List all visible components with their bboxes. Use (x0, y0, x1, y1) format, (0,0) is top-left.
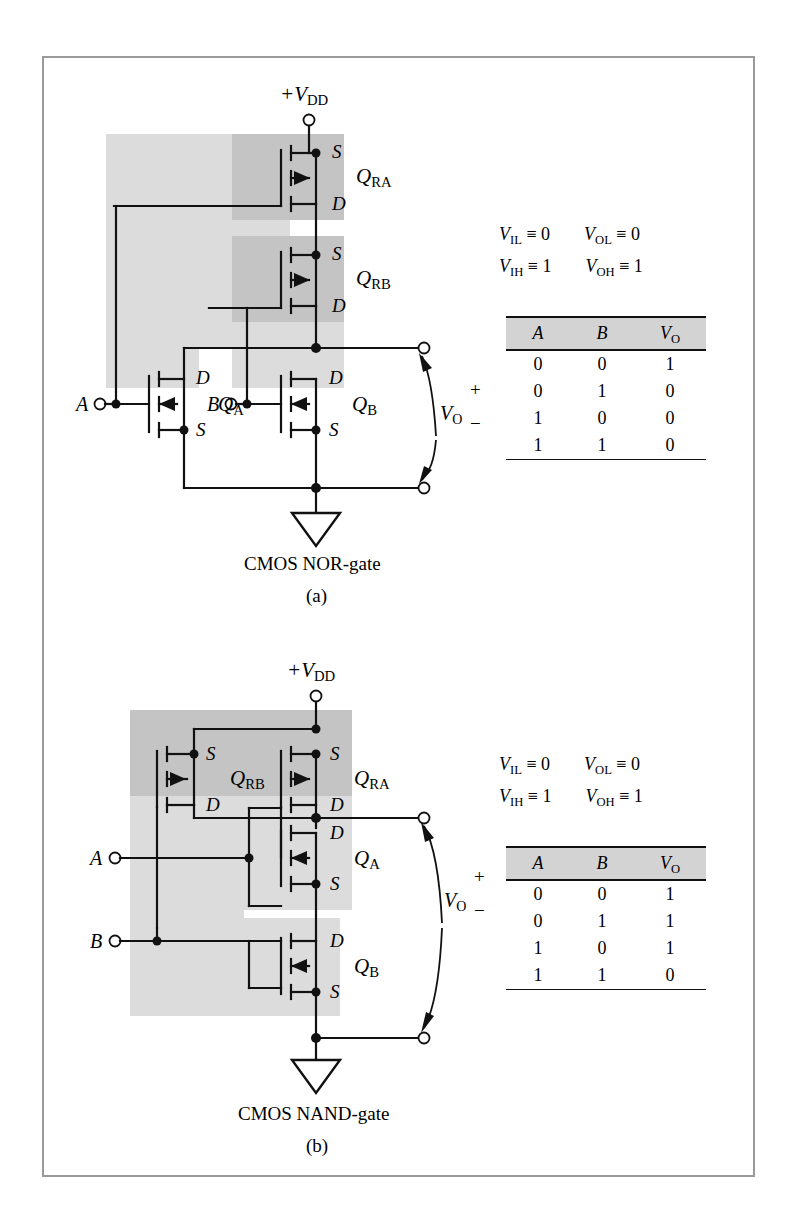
figure-frame: +VDD S D QRA S D QRB D S QA D S QB A B (42, 56, 755, 1177)
nor-cell-vo: 1 (634, 350, 706, 378)
nand-cell-a: 0 (506, 880, 570, 908)
nand-legend-row-1: VIL ≡ 0 VOL ≡ 0 (499, 754, 643, 775)
nand-vdd-terminal (311, 691, 322, 702)
nand-output-terminal-top (419, 813, 430, 824)
nand-vo-arrowhead-down-icon (421, 1012, 434, 1033)
nor-truth-table: A B VO 0 0 1 0 1 0 (506, 316, 706, 460)
nor-cell-b: 0 (570, 350, 634, 378)
table-row: 1 0 1 (506, 935, 706, 962)
table-row: 0 0 1 (506, 350, 706, 378)
nor-qra-terminal-s: S (332, 142, 342, 161)
nand-qb-label: QB (354, 956, 379, 977)
nand-qrb-terminal-s: S (206, 744, 216, 763)
nor-output-plus: + (470, 380, 481, 399)
nand-qra-label: QRA (354, 768, 390, 789)
nand-truth-table: A B VO 0 0 1 0 1 1 (506, 846, 706, 990)
nor-cell-vo: 0 (634, 432, 706, 460)
nor-cell-b: 0 (570, 405, 634, 432)
nor-output-terminal-top (419, 343, 430, 354)
nand-cell-a: 1 (506, 962, 570, 990)
nor-cell-b: 1 (570, 378, 634, 405)
nor-cell-vo: 0 (634, 378, 706, 405)
nor-qa-label: QA (218, 394, 244, 415)
nor-output-terminal-bottom (419, 483, 430, 494)
nor-legend-vih: VIH ≡ 1 (499, 256, 551, 277)
nand-cell-vo: 1 (634, 908, 706, 935)
nand-cell-b: 0 (570, 880, 634, 908)
nand-th-a: A (506, 847, 570, 880)
nand-qa-label: QA (354, 848, 380, 869)
nor-vo-arrowhead-up-icon (419, 353, 432, 372)
nor-output-label: VO (440, 403, 462, 423)
nor-qb-terminal-d: D (329, 368, 343, 387)
nor-qa-arrow-icon (159, 397, 175, 411)
nand-sub-caption: (b) (306, 1136, 328, 1155)
table-row: 1 1 0 (506, 962, 706, 990)
nand-vo-arrowhead-up-icon (421, 822, 434, 842)
nor-qrb-label: QRB (356, 268, 391, 289)
nor-cell-a: 1 (506, 432, 570, 460)
nor-caption: CMOS NOR-gate (244, 554, 381, 573)
nor-cell-a: 0 (506, 350, 570, 378)
nand-cell-a: 0 (506, 908, 570, 935)
nor-sub-caption: (a) (306, 586, 327, 605)
nor-ground-symbol-icon (292, 513, 340, 546)
nor-cell-b: 1 (570, 432, 634, 460)
nand-input-b-terminal (110, 936, 121, 947)
nand-caption: CMOS NAND-gate (238, 1104, 389, 1123)
nor-cell-a: 0 (506, 378, 570, 405)
nor-input-b-label: B (207, 394, 219, 414)
nand-legend-row-2: VIH ≡ 1 VOH ≡ 1 (499, 786, 643, 807)
nor-legend-vil: VIL ≡ 0 (499, 224, 550, 245)
nor-qb-terminal-s: S (329, 420, 339, 439)
nand-ground-symbol-icon (292, 1060, 340, 1093)
nor-th-b: B (570, 317, 634, 350)
nand-output-plus: + (474, 867, 485, 886)
nand-output-minus: − (474, 901, 485, 920)
nor-cell-vo: 0 (634, 405, 706, 432)
nand-cell-b: 1 (570, 908, 634, 935)
nand-legend-vol: VOL ≡ 0 (584, 754, 640, 775)
nand-cell-b: 0 (570, 935, 634, 962)
nor-legend-voh: VOH ≡ 1 (585, 256, 642, 277)
nor-qrb-terminal-d: D (332, 296, 346, 315)
nand-cell-a: 1 (506, 935, 570, 962)
nand-input-a-label: A (90, 848, 102, 868)
nand-input-b-label: B (90, 931, 102, 951)
nand-legend: VIL ≡ 0 VOL ≡ 0 VIH ≡ 1 (499, 754, 643, 818)
nand-output-terminal-bottom (419, 1033, 430, 1044)
nand-legend-voh: VOH ≡ 1 (585, 786, 642, 807)
nor-cell-a: 1 (506, 405, 570, 432)
nand-cell-b: 1 (570, 962, 634, 990)
nor-legend: VIL ≡ 0 VOL ≡ 0 VIH ≡ 1 (499, 224, 643, 288)
nor-input-a-label: A (76, 394, 88, 414)
nor-qra-label: QRA (356, 166, 392, 187)
nand-qb-terminal-s: S (330, 982, 340, 1001)
nand-input-a-terminal (110, 853, 121, 864)
nor-th-vo: VO (634, 317, 706, 350)
nor-qrb-source-node (312, 251, 321, 260)
nand-qrb-terminal-d: D (206, 795, 220, 814)
nor-qb-arrow-icon (291, 397, 307, 411)
nor-vdd-label: +VDD (280, 84, 328, 105)
nand-cell-vo: 1 (634, 935, 706, 962)
nand-qra-source-node (312, 750, 321, 759)
nor-qra-source-node (312, 149, 321, 158)
table-row: 0 0 1 (506, 880, 706, 908)
nor-qra-terminal-d: D (332, 194, 346, 213)
nor-legend-row-1: VIL ≡ 0 VOL ≡ 0 (499, 224, 643, 245)
table-row: 0 1 0 (506, 378, 706, 405)
nand-qrb-label: QRB (230, 768, 265, 789)
nand-legend-vil: VIL ≡ 0 (499, 754, 550, 775)
nand-qb-terminal-d: D (330, 931, 344, 950)
nand-output-label: VO (444, 890, 466, 910)
nand-qa-terminal-s: S (330, 874, 340, 893)
nor-vdd-terminal (304, 115, 315, 126)
table-row: 0 1 1 (506, 908, 706, 935)
nor-qb-label: QB (352, 394, 377, 415)
nor-qrb-terminal-s: S (332, 244, 342, 263)
nor-qa-terminal-s: S (196, 420, 206, 439)
nor-qa-terminal-d: D (196, 368, 210, 387)
nor-input-a-terminal (95, 399, 106, 410)
nand-vdd-label: +VDD (287, 660, 335, 681)
